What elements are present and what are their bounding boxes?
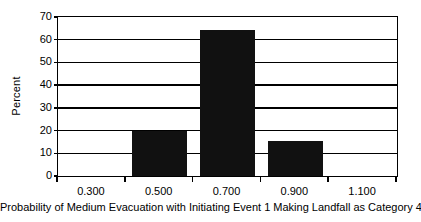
y-tick-label: 0 [14, 170, 52, 181]
x-tick-mark [192, 177, 194, 182]
x-tick-label: 0.300 [61, 185, 121, 197]
bar [132, 131, 188, 176]
y-tick-mark [54, 62, 58, 64]
bar [268, 141, 324, 176]
y-tick-label: 50 [14, 56, 52, 67]
x-tick-label: 0.500 [129, 185, 189, 197]
y-tick-label: 20 [14, 125, 52, 136]
y-axis-tick-labels: 010203040506070 [0, 0, 52, 222]
x-tick-mark [124, 177, 126, 182]
y-tick-label: 40 [14, 79, 52, 90]
bar-chart-figure: Percent 010203040506070 0.3000.5000.7000… [0, 0, 421, 222]
y-tick-mark [54, 130, 58, 132]
y-tick-label: 60 [14, 34, 52, 45]
y-tick-label: 70 [14, 11, 52, 22]
y-tick-mark [54, 84, 58, 86]
x-tick-mark [260, 177, 262, 182]
y-tick-mark [54, 153, 58, 155]
x-tick-mark [395, 177, 397, 182]
plot-area [57, 16, 398, 177]
x-axis-tick-labels: 0.3000.5000.7000.9001.100 [57, 185, 398, 199]
bar [200, 30, 256, 177]
y-tick-label: 30 [14, 102, 52, 113]
y-tick-mark [54, 39, 58, 41]
y-tick-mark [54, 16, 58, 18]
x-tick-mark [327, 177, 329, 182]
x-tick-label: 0.700 [197, 185, 257, 197]
x-axis-tick-marks [57, 177, 398, 183]
y-tick-label: 10 [14, 147, 52, 158]
x-tick-label: 0.900 [264, 185, 324, 197]
x-tick-mark [56, 177, 58, 182]
x-tick-label: 1.100 [332, 185, 392, 197]
x-axis-title: Probability of Medium Evacuation with In… [0, 201, 421, 214]
y-tick-mark [54, 107, 58, 109]
